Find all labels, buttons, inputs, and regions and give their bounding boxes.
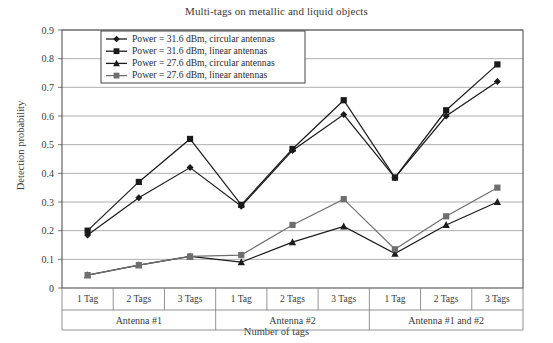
- data-point-marker: [341, 196, 347, 202]
- x-tick-label: 3 Tags: [485, 294, 510, 304]
- data-point-marker: [341, 97, 347, 103]
- data-point-marker: [494, 185, 500, 191]
- data-point-marker: [392, 246, 398, 252]
- y-tick-label: 0.9: [42, 25, 55, 36]
- legend-label: Power = 31.6 dBm, linear antennas: [132, 45, 267, 56]
- y-tick-label: 0.2: [42, 225, 55, 236]
- data-point-marker: [114, 48, 120, 54]
- y-tick-label: 0.6: [42, 111, 55, 122]
- data-point-marker: [136, 262, 142, 268]
- x-tick-label: 1 Tag: [384, 294, 405, 304]
- data-point-marker: [494, 61, 500, 67]
- x-tick-label: 2 Tags: [280, 294, 305, 304]
- y-tick-label: 0.5: [42, 139, 55, 150]
- x-tick-label: 3 Tags: [178, 294, 203, 304]
- data-point-marker: [443, 221, 450, 228]
- plot-area: 00.10.20.30.40.50.60.70.80.9 1 Tag2 Tags…: [0, 0, 553, 343]
- data-point-marker: [392, 175, 398, 181]
- data-point-marker: [136, 179, 142, 185]
- data-point-marker: [340, 222, 347, 229]
- x-tick-label: 2 Tags: [126, 294, 151, 304]
- data-point-marker: [85, 272, 91, 278]
- legend-label: Power = 31.6 dBm, circular antennas: [132, 33, 275, 44]
- y-tick-label: 0.3: [42, 197, 55, 208]
- x-tick-label: 3 Tags: [331, 294, 356, 304]
- chart-figure: Multi-tags on metallic and liquid object…: [0, 0, 553, 343]
- y-tick-label: 0.8: [42, 53, 55, 64]
- legend-label: Power = 27.6 dBm, circular antennas: [132, 57, 275, 68]
- series-1: [84, 78, 501, 238]
- legend-label: Power = 27.6 dBm, linear antennas: [132, 69, 267, 80]
- series-4: [85, 185, 501, 279]
- data-point-marker: [443, 107, 449, 113]
- data-point-marker: [114, 73, 120, 79]
- data-point-marker: [289, 146, 295, 152]
- data-point-marker: [494, 78, 501, 85]
- y-axis-ticks: 00.10.20.30.40.50.60.70.80.9: [42, 25, 63, 294]
- x-tick-label: 1 Tag: [77, 294, 98, 304]
- data-point-marker: [187, 136, 193, 142]
- chart-legend: Power = 31.6 dBm, circular antennasPower…: [101, 31, 305, 83]
- data-point-marker: [238, 202, 244, 208]
- data-point-marker: [85, 228, 91, 234]
- x-axis-group-label: Antenna #2: [269, 315, 315, 326]
- y-tick-label: 0: [49, 283, 54, 294]
- data-point-marker: [443, 213, 449, 219]
- series-3: [84, 198, 501, 278]
- x-axis-category-cells: 1 Tag2 Tags3 Tags1 Tag2 Tags3 Tags1 Tag2…: [62, 288, 523, 330]
- x-axis-group-label: Antenna #1: [116, 315, 162, 326]
- y-tick-label: 0.1: [42, 254, 55, 265]
- x-axis-group-label: Antenna #1 and #2: [408, 315, 484, 326]
- legend-item: Power = 27.6 dBm, circular antennas: [106, 57, 275, 68]
- legend-item: Power = 31.6 dBm, circular antennas: [106, 33, 275, 44]
- data-series: [84, 61, 501, 278]
- x-tick-label: 2 Tags: [434, 294, 459, 304]
- data-point-marker: [238, 252, 244, 258]
- x-tick-label: 1 Tag: [231, 294, 252, 304]
- y-tick-label: 0.7: [42, 82, 55, 93]
- y-tick-label: 0.4: [42, 168, 55, 179]
- data-point-marker: [187, 253, 193, 259]
- data-point-marker: [289, 222, 295, 228]
